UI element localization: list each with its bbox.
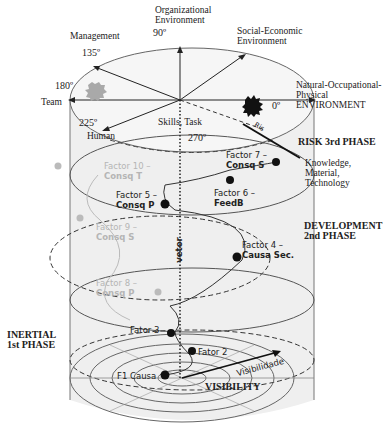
team-label: Team — [41, 97, 62, 107]
factor-9-label: Factor 9 –Consq S — [96, 222, 137, 242]
deg-0: 0º — [272, 100, 280, 111]
factor-1-label: F1 Causa — [117, 371, 156, 381]
skills-task-label: Skills, Task — [158, 117, 202, 127]
cylinder-diagram — [0, 0, 387, 434]
factor-5-dot — [161, 200, 170, 209]
factor-6-label: Factor 6 –FeedB — [214, 188, 255, 208]
factor-10-label: Factor 10 –Consq T — [104, 161, 151, 181]
factor-4-dot — [233, 253, 242, 262]
factor-3-label: Fator 3 — [130, 325, 159, 335]
factor-2-dot — [188, 347, 196, 355]
factor-1-dot — [161, 371, 170, 380]
visibility-label: VISIBILITY — [205, 382, 261, 392]
management-label: Management — [70, 31, 120, 41]
vetor-label: vetor — [174, 237, 184, 262]
deg-225: 225º — [79, 117, 97, 128]
factor-3-dot — [167, 329, 175, 337]
deg-270: 270º — [188, 132, 206, 143]
deg-180: 180º — [55, 80, 73, 91]
human-label: Human — [87, 131, 115, 141]
factor-8-label: Factor 8 –Consq P — [96, 278, 137, 298]
natural-environment-label: Natural-Occupational-PhysicalENVIRONMENT — [296, 80, 381, 110]
knowledge-label: Knowledge,Material,Technology — [305, 158, 351, 188]
social-economic-label: Social-EconomicEnvironment — [237, 26, 302, 46]
factor-2-label: Fator 2 — [198, 347, 227, 357]
deg-135: 135º — [82, 47, 100, 58]
factor-6-dot — [226, 176, 234, 184]
organizational-label: OrganizationalEnvironment — [155, 5, 211, 25]
factor-7-dot — [272, 158, 280, 166]
factor-5-label: Factor 5 –Consq P — [116, 190, 157, 210]
risk-phase-label: RISK 3rd PHASE — [298, 137, 376, 147]
development-phase-label: DEVELOPMENT2nd PHASE — [304, 221, 382, 241]
deg-90: 90º — [153, 27, 166, 38]
inertial-phase-label: INERTIAL1st PHASE — [7, 330, 56, 350]
factor-7-label: Factor 7 –Consq S — [226, 150, 267, 170]
factor-4-label: Factor 4 –Causa Sec. — [242, 240, 294, 260]
